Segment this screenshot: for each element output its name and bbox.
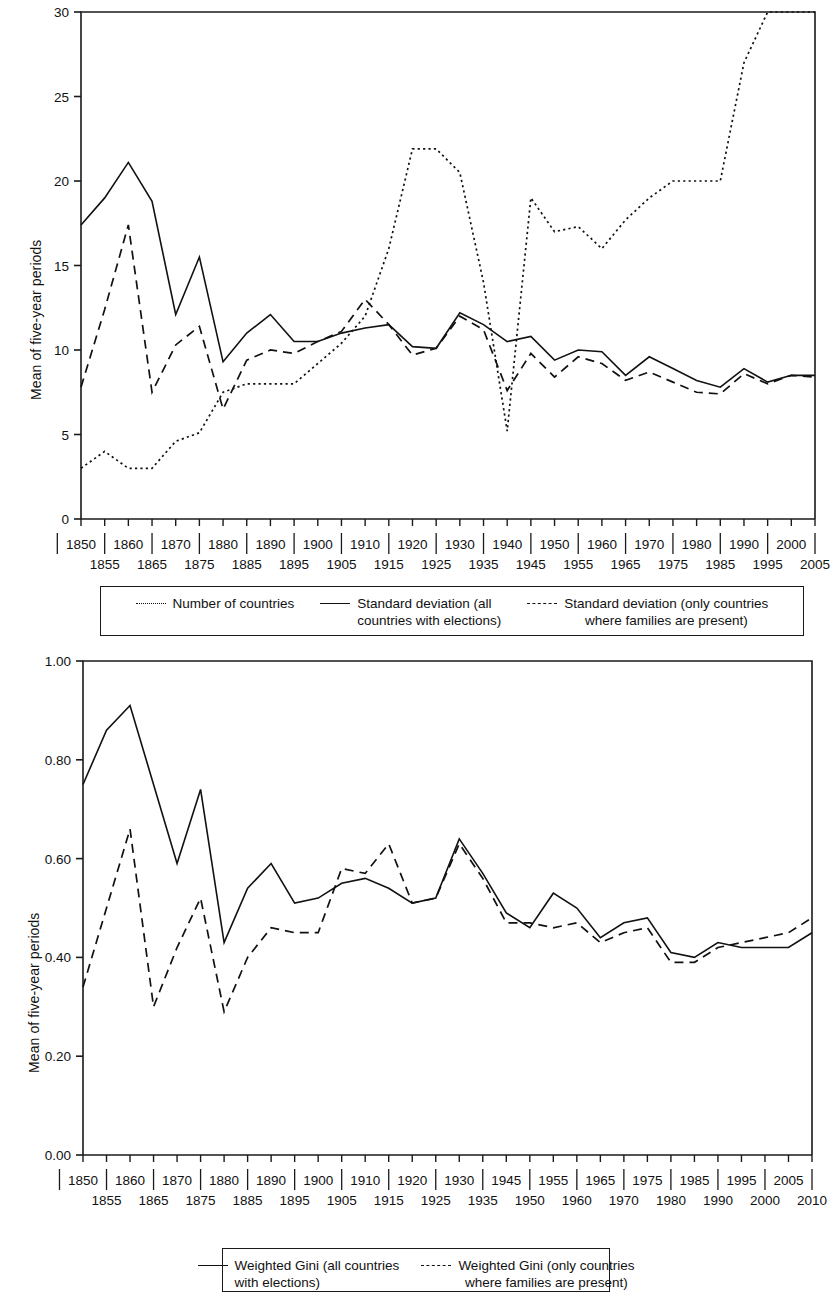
svg-text:5: 5 — [61, 428, 69, 443]
svg-text:0.20: 0.20 — [45, 1049, 71, 1064]
svg-text:25: 25 — [54, 90, 69, 105]
svg-text:1915: 1915 — [374, 1193, 404, 1208]
svg-text:1870: 1870 — [161, 537, 191, 552]
svg-text:1970: 1970 — [634, 537, 664, 552]
chart-panel-bottom: Mean of five-year periods 0.000.200.400.… — [0, 648, 837, 1298]
svg-text:0.80: 0.80 — [45, 753, 71, 768]
legend-label-line1: Weighted Gini (only countries — [458, 1257, 634, 1274]
svg-text:1890: 1890 — [256, 1173, 286, 1188]
svg-text:1890: 1890 — [255, 537, 285, 552]
svg-text:1855: 1855 — [90, 557, 120, 572]
line-dashed-icon — [527, 595, 557, 612]
svg-text:2010: 2010 — [797, 1193, 827, 1208]
svg-text:1865: 1865 — [139, 1193, 169, 1208]
series-line — [81, 12, 815, 468]
svg-text:1930: 1930 — [444, 1173, 474, 1188]
svg-text:2000: 2000 — [776, 537, 806, 552]
svg-text:1885: 1885 — [232, 557, 262, 572]
svg-text:1910: 1910 — [350, 1173, 380, 1188]
svg-text:1985: 1985 — [705, 557, 735, 572]
svg-text:0.00: 0.00 — [45, 1148, 71, 1163]
svg-text:1955: 1955 — [538, 1173, 568, 1188]
svg-text:1950: 1950 — [515, 1193, 545, 1208]
svg-text:1965: 1965 — [585, 1173, 615, 1188]
svg-text:1895: 1895 — [279, 557, 309, 572]
svg-text:1980: 1980 — [656, 1193, 686, 1208]
line-dashed-icon — [421, 1257, 451, 1274]
svg-text:30: 30 — [54, 5, 69, 20]
svg-text:1975: 1975 — [658, 557, 688, 572]
line-solid-icon — [320, 595, 350, 612]
svg-text:1955: 1955 — [563, 557, 593, 572]
line-dotted-icon — [136, 595, 166, 612]
svg-text:1960: 1960 — [562, 1193, 592, 1208]
svg-text:1880: 1880 — [208, 537, 238, 552]
svg-text:10: 10 — [54, 343, 69, 358]
legend-item-stddev-families[interactable]: Standard deviation (only countries where… — [527, 595, 768, 629]
svg-text:1935: 1935 — [468, 557, 498, 572]
svg-text:1935: 1935 — [468, 1193, 498, 1208]
figure-container: Mean of five-year periods 05101520253018… — [0, 0, 837, 1298]
svg-text:1.00: 1.00 — [45, 654, 71, 669]
svg-text:1875: 1875 — [186, 1193, 216, 1208]
svg-text:2005: 2005 — [800, 557, 830, 572]
svg-text:1850: 1850 — [68, 1173, 98, 1188]
svg-text:1975: 1975 — [632, 1173, 662, 1188]
svg-text:1870: 1870 — [162, 1173, 192, 1188]
svg-text:1930: 1930 — [445, 537, 475, 552]
svg-text:1875: 1875 — [184, 557, 214, 572]
svg-text:1970: 1970 — [609, 1193, 639, 1208]
svg-text:1925: 1925 — [421, 557, 451, 572]
legend-label-line1: Weighted Gini (all countries — [235, 1257, 400, 1274]
svg-text:1985: 1985 — [679, 1173, 709, 1188]
svg-text:15: 15 — [54, 259, 69, 274]
svg-text:1950: 1950 — [540, 537, 570, 552]
svg-text:1990: 1990 — [729, 537, 759, 552]
legend-label-line1: Number of countries — [173, 595, 295, 612]
svg-text:1920: 1920 — [397, 537, 427, 552]
svg-text:2005: 2005 — [773, 1173, 803, 1188]
svg-text:1945: 1945 — [491, 1173, 521, 1188]
svg-text:1885: 1885 — [233, 1193, 263, 1208]
legend-label-line1: Standard deviation (only countries — [564, 595, 768, 612]
svg-text:1880: 1880 — [209, 1173, 239, 1188]
svg-text:1860: 1860 — [113, 537, 143, 552]
svg-text:1850: 1850 — [66, 537, 96, 552]
legend-item-gini-families[interactable]: Weighted Gini (only countries where fami… — [421, 1257, 634, 1291]
svg-text:1905: 1905 — [326, 557, 356, 572]
svg-text:1860: 1860 — [115, 1173, 145, 1188]
legend-label-line2: where families are present) — [564, 612, 768, 629]
svg-text:20: 20 — [54, 174, 69, 189]
legend-bottom: Weighted Gini (all countries with electi… — [222, 1248, 610, 1292]
legend-item-gini-all[interactable]: Weighted Gini (all countries with electi… — [198, 1257, 400, 1291]
svg-text:0.40: 0.40 — [45, 950, 71, 965]
line-solid-icon — [198, 1257, 228, 1274]
y-axis-label-bottom: Mean of five-year periods — [26, 913, 42, 1073]
legend-label-line2: where families are present) — [458, 1274, 634, 1291]
plot-area-bottom: 0.000.200.400.600.801.001850186018701880… — [0, 648, 837, 1233]
svg-text:1900: 1900 — [303, 1173, 333, 1188]
y-axis-label-top: Mean of five-year periods — [28, 240, 44, 400]
svg-text:1965: 1965 — [611, 557, 641, 572]
svg-text:1995: 1995 — [726, 1173, 756, 1188]
svg-text:1940: 1940 — [492, 537, 522, 552]
legend-item-stddev-all[interactable]: Standard deviation (all countries with e… — [320, 595, 501, 629]
svg-text:1925: 1925 — [421, 1193, 451, 1208]
svg-text:1905: 1905 — [327, 1193, 357, 1208]
plot-area-top: 0510152025301850186018701880189019001910… — [0, 0, 837, 585]
svg-text:1895: 1895 — [280, 1193, 310, 1208]
svg-text:0: 0 — [61, 512, 69, 527]
svg-text:1995: 1995 — [753, 557, 783, 572]
legend-label-line2: with elections) — [235, 1274, 400, 1291]
svg-text:1865: 1865 — [137, 557, 167, 572]
svg-text:1980: 1980 — [682, 537, 712, 552]
legend-item-number-of-countries[interactable]: Number of countries — [136, 595, 295, 612]
legend-label-line2: countries with elections) — [357, 612, 501, 629]
svg-text:2000: 2000 — [750, 1193, 780, 1208]
svg-text:1960: 1960 — [587, 537, 617, 552]
series-line — [83, 705, 812, 957]
svg-text:1910: 1910 — [350, 537, 380, 552]
svg-text:1855: 1855 — [91, 1193, 121, 1208]
svg-text:1915: 1915 — [374, 557, 404, 572]
series-line — [83, 829, 812, 1012]
